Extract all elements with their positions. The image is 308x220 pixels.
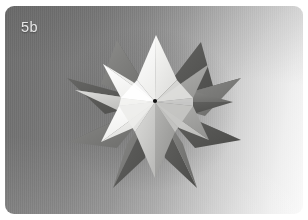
stellated-polyhedron-sculpture [5,6,303,214]
stellated-polyhedron-svg [5,6,303,214]
figure-caption-label: 5b [21,20,38,35]
photo-card: 5b [5,6,303,214]
figure-root: 5b [0,0,308,220]
center-hub-dot [153,99,157,103]
